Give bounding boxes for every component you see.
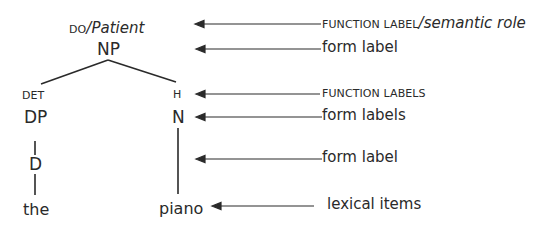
branch-np-h [108,60,176,82]
branch-np-det [41,60,108,84]
annotation-caps: FUNCTION LABEL [322,18,419,31]
function-label-do: DO [69,23,86,36]
root-form-label-np: NP [97,41,120,58]
annotation-form-label-1: form label [322,40,398,55]
right-function-label-h: H [173,89,181,100]
annotation-form-label-2: form label [322,150,398,165]
left-function-label-det: DET [22,90,44,101]
left-form-label-dp: DP [24,109,47,126]
annotation-lexical-items: lexical items [327,197,421,212]
left-sub-form-label-d: D [29,156,42,173]
annotation-italic: semantic role [424,14,526,32]
semantic-role-patient: Patient [91,19,144,37]
annotation-function-label-semantic-role: FUNCTION LABEL/semantic role [322,15,526,31]
lexical-item-piano: piano [159,201,203,217]
right-form-label-n: N [172,109,185,126]
annotation-form-labels: form labels [322,108,406,123]
root-function-label: DO/Patient [69,20,144,36]
annotation-function-labels: FUNCTION LABELS [322,88,426,99]
lexical-item-the: the [23,202,49,218]
